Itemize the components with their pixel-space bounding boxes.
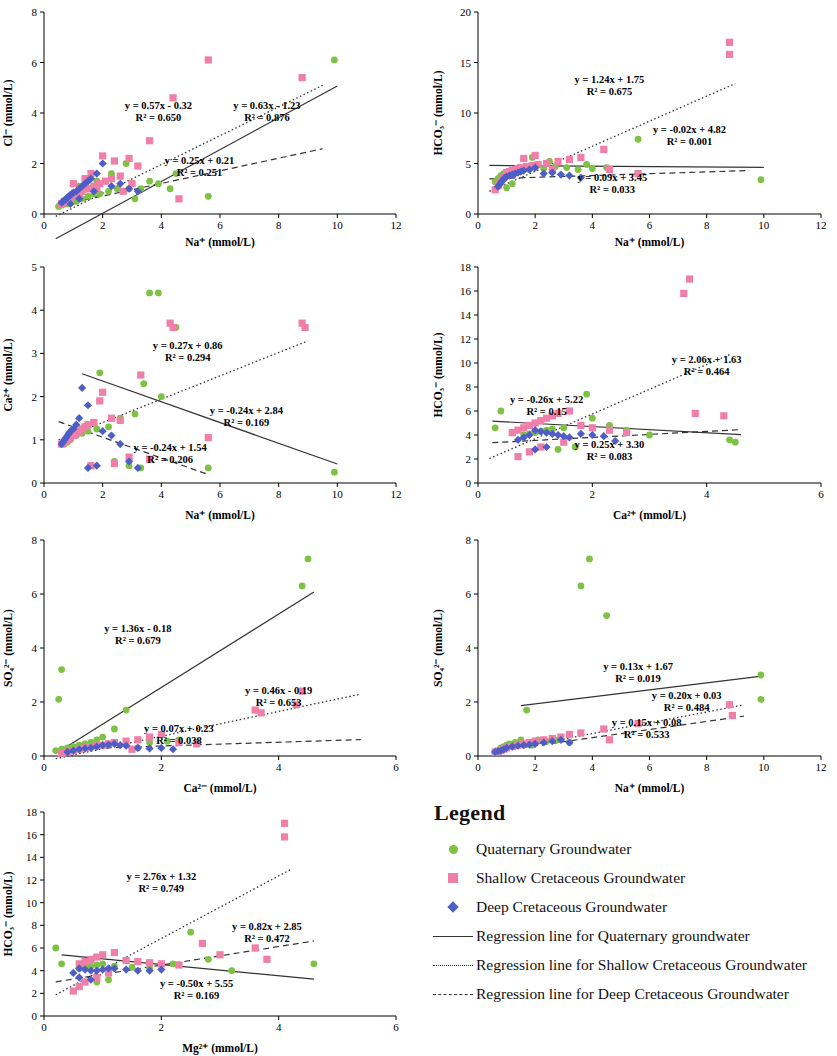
annotation-equation: y = 0.46x - 0.19	[245, 685, 312, 696]
data-point	[600, 725, 607, 732]
data-point	[158, 393, 165, 400]
annotation-r2: R² = 0.15	[526, 406, 566, 417]
data-point	[577, 729, 584, 736]
svg-text:4: 4	[466, 642, 472, 654]
annotation-equation: y = -0.24x + 1.54	[134, 442, 208, 453]
svg-text:SO₄²⁻ (mmol/L): SO₄²⁻ (mmol/L)	[432, 609, 445, 687]
data-point	[93, 967, 101, 975]
data-point	[758, 672, 765, 679]
annotation-r2: R² = 0.169	[224, 417, 270, 428]
svg-text:0: 0	[41, 1021, 47, 1033]
data-point	[155, 290, 162, 297]
data-point	[99, 159, 107, 167]
annotation-equation: y = -0.24x + 2.84	[210, 405, 284, 416]
data-point	[123, 707, 130, 714]
data-point	[514, 453, 521, 460]
svg-text:18: 18	[460, 261, 472, 273]
dia-blue-marker-icon	[447, 901, 458, 912]
data-point	[216, 951, 223, 958]
svg-text:2: 2	[32, 391, 38, 403]
svg-text:12: 12	[816, 219, 827, 231]
chart-panel-hco3-vs-na: 02468101205101520Na⁺ (mmol/L)HCO₃⁻ (mmol…	[430, 0, 835, 250]
line-solid-swatch-icon	[433, 936, 473, 937]
svg-text:Na⁺ (mmol/L): Na⁺ (mmol/L)	[185, 236, 255, 249]
legend-item-4: Regression line for Shallow Cretaceous G…	[430, 956, 835, 974]
svg-text:Ca²⁻ (mmol/L): Ca²⁻ (mmol/L)	[183, 782, 256, 795]
data-point	[305, 556, 312, 563]
chart-panel-cl-vs-na: 02468101202468Na⁺ (mmol/L)Cl⁻ (mmol/L)y …	[0, 0, 410, 250]
svg-text:0: 0	[32, 1010, 38, 1022]
data-point	[78, 384, 86, 392]
chart-panel-hco3-vs-ca: 0246024681012141618Ca²⁺ (mmol/L)HCO₃⁻ (m…	[430, 255, 835, 523]
data-point	[331, 57, 338, 64]
legend-label: Regression line for Deep Cretaceous Grou…	[476, 985, 789, 1003]
svg-text:2: 2	[100, 219, 106, 231]
svg-text:12: 12	[26, 874, 37, 886]
data-point	[520, 155, 527, 162]
annotation-equation: y = -0.50x + 5.55	[160, 978, 233, 989]
data-point	[583, 391, 590, 398]
annotation-equation: y = 0.09x + 3.45	[577, 172, 647, 183]
data-point	[720, 412, 727, 419]
data-point	[646, 432, 653, 439]
data-point	[301, 324, 308, 331]
svg-text:4: 4	[32, 304, 38, 316]
data-point	[146, 959, 153, 966]
data-point	[565, 738, 573, 746]
annotation-r2: R² = 0.876	[244, 112, 290, 123]
annotation-equation: y = 0.63x - 1.23	[233, 100, 300, 111]
data-point	[105, 423, 112, 430]
data-point	[205, 434, 212, 441]
svg-text:8: 8	[32, 919, 38, 931]
svg-text:4: 4	[276, 1021, 282, 1033]
chart-hco3-vs-mg: 0246024681012141618Mg²⁺ (mmol/L)HCO₃⁻ (m…	[0, 800, 410, 1056]
svg-text:12: 12	[391, 219, 402, 231]
legend-label: Regression line for Shallow Cretaceous G…	[476, 956, 807, 974]
svg-text:2: 2	[466, 453, 472, 465]
data-point	[169, 745, 177, 753]
annotation-r2: R² = 0.675	[587, 86, 633, 97]
data-point	[252, 944, 259, 951]
data-point	[134, 958, 141, 965]
data-point	[140, 380, 147, 387]
legend-key-line-dashed	[430, 986, 476, 1002]
svg-text:8: 8	[32, 534, 38, 546]
data-point	[555, 446, 562, 453]
svg-text:10: 10	[460, 357, 472, 369]
svg-text:12: 12	[460, 333, 471, 345]
svg-text:HCO₃⁻ (mmol/L): HCO₃⁻ (mmol/L)	[432, 70, 445, 155]
svg-text:6: 6	[393, 761, 399, 773]
annotation-equation: y = 0.20x + 0.03	[652, 690, 722, 701]
svg-text:10: 10	[332, 488, 344, 500]
annotation-r2: R² = 0.653	[256, 697, 302, 708]
data-point	[566, 407, 573, 414]
data-point	[70, 987, 77, 994]
data-point	[281, 820, 288, 827]
svg-text:18: 18	[26, 806, 38, 818]
annotation-r2: R² = 0.472	[244, 933, 290, 944]
data-point	[497, 408, 504, 415]
data-point	[169, 324, 176, 331]
svg-text:4: 4	[32, 642, 38, 654]
annotation-r2: R² = 0.679	[115, 635, 161, 646]
chart-panel-so4-vs-na: 02468101202468Na⁺ (mmol/L)SO₄²⁻ (mmol/L)…	[430, 528, 835, 796]
data-point	[58, 666, 65, 673]
svg-text:6: 6	[32, 57, 38, 69]
legend: Legend Quaternary GroundwaterShallow Cre…	[430, 800, 835, 1014]
svg-text:0: 0	[32, 750, 38, 762]
data-point	[532, 152, 539, 159]
data-point	[167, 185, 174, 192]
svg-text:0: 0	[466, 477, 472, 489]
svg-text:0: 0	[41, 761, 47, 773]
legend-label: Shallow Cretaceous Groundwater	[476, 869, 685, 887]
annotation-equation: y = 1.36x - 0.18	[104, 623, 171, 634]
data-point	[111, 726, 118, 733]
data-point	[52, 945, 59, 952]
data-point	[554, 158, 561, 165]
data-point	[588, 431, 596, 439]
svg-text:10: 10	[460, 107, 472, 119]
svg-text:2: 2	[32, 987, 38, 999]
data-point	[69, 969, 77, 977]
data-point	[84, 401, 92, 409]
svg-text:6: 6	[466, 588, 472, 600]
